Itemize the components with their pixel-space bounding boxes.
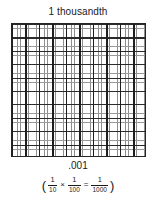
multiplication-sign: × bbox=[59, 181, 66, 189]
denominator: 100 bbox=[68, 186, 81, 194]
numerator: 1 bbox=[50, 176, 56, 184]
open-paren: ( bbox=[42, 179, 46, 192]
denominator: 1000 bbox=[91, 186, 107, 194]
numerator: 1 bbox=[71, 176, 77, 184]
denominator: 10 bbox=[48, 186, 57, 194]
decimal-value-label: .001 bbox=[0, 159, 156, 172]
close-paren: ) bbox=[110, 179, 114, 192]
thousandth-place-value-figure: 1 thousandth .001 ( 1 10 × 1 100 = 1 100… bbox=[0, 0, 156, 199]
fraction-one-thousandth: 1 1000 bbox=[91, 176, 107, 194]
equals-sign: = bbox=[83, 181, 90, 189]
equation: ( 1 10 × 1 100 = 1 1000 ) bbox=[0, 176, 156, 194]
tenths-major-lines bbox=[12, 24, 145, 156]
fraction-one-hundredth: 1 100 bbox=[68, 176, 81, 194]
fraction-one-tenth: 1 10 bbox=[48, 176, 57, 194]
figure-title: 1 thousandth bbox=[0, 5, 156, 18]
numerator: 1 bbox=[97, 176, 103, 184]
thousandths-grid bbox=[11, 23, 146, 157]
